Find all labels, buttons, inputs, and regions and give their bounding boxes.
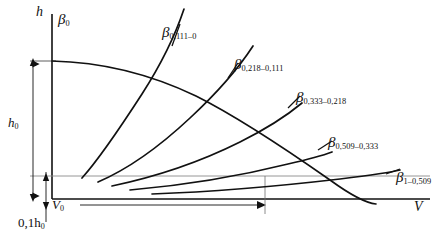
h0-dimension-arrow-bottom xyxy=(30,194,36,202)
v0-symbol: V xyxy=(52,197,60,212)
figure-drawing xyxy=(0,0,440,236)
curve-label-beta-0: β0 xyxy=(58,12,70,29)
curve-label-beta-0509-0333: β0,509–0,333 xyxy=(328,135,378,152)
y-axis-label: h xyxy=(36,5,43,19)
figure-container: h V β0 β0,111–0 β0,218–0,111 β0,333–0,21… xyxy=(0,0,440,236)
v0-subscript: 0 xyxy=(60,204,64,213)
v0-dimension-label: V0 xyxy=(52,198,64,213)
tenth-h0-arrow-lower xyxy=(43,202,49,210)
curve-label-beta-1-0509: β1–0,509 xyxy=(396,170,431,187)
beta-0333-0218-subscript: 0,333–0,218 xyxy=(303,97,346,106)
beta-0-subscript: 0 xyxy=(65,19,69,28)
beta-0509-0333-subscript: 0,509–0,333 xyxy=(335,142,378,151)
h0-dimension-arrow-top xyxy=(30,58,36,66)
curve-beta-0509-0333 xyxy=(130,152,332,190)
x-axis-label: V xyxy=(414,200,423,214)
tenth-h0-text: 0,1h xyxy=(18,215,41,230)
h0-dimension-label: h0 xyxy=(8,116,19,131)
beta-0111-0-subscript: 0,111–0 xyxy=(169,32,196,41)
curve-label-beta-0111-0: β0,111–0 xyxy=(162,25,197,42)
curve-label-beta-0333-0218: β0,333–0,218 xyxy=(296,90,346,107)
beta-1-0509-subscript: 1–0,509 xyxy=(403,177,431,186)
tenth-h0-arrow-upper xyxy=(43,173,49,181)
tenth-h0-subscript: 0 xyxy=(41,222,45,231)
curve-beta-0333-0218 xyxy=(112,103,302,186)
tenth-h0-dimension-label: 0,1h0 xyxy=(18,216,45,231)
curve-beta-0 xyxy=(52,61,376,204)
h0-subscript: 0 xyxy=(15,122,19,131)
curve-beta-1-0509 xyxy=(152,170,400,194)
beta-0218-0111-subscript: 0,218–0,111 xyxy=(241,64,283,73)
curve-label-beta-0218-0111: β0,218–0,111 xyxy=(234,57,284,74)
